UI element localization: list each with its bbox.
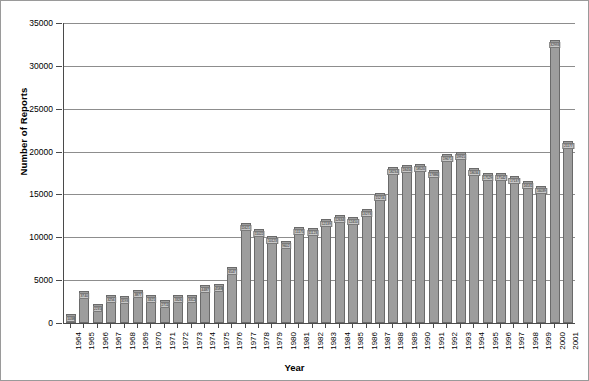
x-axis-tick-label: 1988: [396, 332, 405, 350]
x-axis-tick-label: 1964: [74, 332, 83, 350]
y-axis-tick: [56, 237, 62, 238]
bar: 11123: [308, 228, 318, 323]
bar-slot: 2711: [160, 23, 170, 323]
x-axis-tick: [352, 324, 353, 328]
bar-value-label: 3312: [187, 297, 197, 303]
x-axis-tick-label: 1990: [423, 332, 432, 350]
bar-slot: 1038: [66, 23, 76, 323]
bar-value-label: 18434: [401, 167, 413, 173]
x-axis-tick-label: 1977: [249, 332, 258, 350]
x-axis-tick-label: 1998: [531, 332, 540, 350]
x-axis-tick-label: 1981: [302, 332, 311, 350]
x-axis-tick: [97, 324, 98, 328]
bar-slot: 18520: [415, 23, 425, 323]
x-axis-tick-label: 1989: [410, 332, 419, 350]
x-axis-tick-label: 1985: [356, 332, 365, 350]
bar: 13273: [362, 209, 372, 323]
y-axis-tick-label: 0: [48, 318, 53, 328]
bar: 17529: [483, 173, 493, 323]
y-axis-tick: [56, 323, 62, 324]
bar-value-label: 2235: [93, 306, 103, 312]
bar-value-label: 3326: [173, 297, 183, 303]
bar-value-label: 11175: [294, 229, 305, 235]
bar-value-label: 13273: [361, 211, 373, 217]
bar-slot: 3256: [106, 23, 116, 323]
bar-slot: 19915: [456, 23, 466, 323]
x-axis-tick: [164, 324, 165, 328]
bar: 3312: [187, 295, 197, 323]
bar-slot: 11621: [241, 23, 251, 323]
bar: 11175: [294, 227, 304, 323]
bar-slot: 2235: [93, 23, 103, 323]
x-axis-tick-label: 1973: [195, 332, 204, 350]
x-axis-tick-label: 1996: [504, 332, 513, 350]
bar-value-label: 4487: [200, 287, 210, 293]
x-axis-tick: [392, 324, 393, 328]
x-axis-tick: [191, 324, 192, 328]
x-axis-tick: [285, 324, 286, 328]
bar-value-label: 16531: [522, 183, 534, 189]
x-axis-tick-label: 1980: [289, 332, 298, 350]
bar: 12410: [348, 217, 358, 323]
bar: 2235: [93, 304, 103, 323]
x-axis-tick: [339, 324, 340, 328]
x-axis-tick-label: 1991: [437, 332, 446, 350]
x-axis-tick: [137, 324, 138, 328]
x-axis-tick: [513, 324, 514, 328]
bar-slot: 21177: [563, 23, 573, 323]
x-axis-tick-label: 1971: [168, 332, 177, 350]
x-axis-tick: [500, 324, 501, 328]
bar-slot: 17137: [510, 23, 520, 323]
bar: 2711: [160, 300, 170, 323]
y-axis-tick-label: 25000: [29, 104, 53, 114]
bar: 1038: [66, 314, 76, 323]
bar-value-label: 9602: [281, 243, 291, 249]
x-axis-tick-label: 1966: [101, 332, 110, 350]
bar-value-label: 17137: [509, 178, 521, 184]
x-axis-tick: [567, 324, 568, 328]
bar: 11621: [241, 223, 251, 323]
bar-slot: 18434: [402, 23, 412, 323]
x-axis-tick-label: 1969: [141, 332, 150, 350]
bar: 19915: [456, 152, 466, 323]
x-axis-tick: [554, 324, 555, 328]
bar-value-label: 11022: [253, 231, 264, 237]
x-axis-tick: [204, 324, 205, 328]
y-axis-tick: [56, 66, 62, 67]
bar-slot: 3877: [133, 23, 143, 323]
bar: 17886: [429, 170, 439, 323]
x-axis-tick: [419, 324, 420, 328]
bar: 3321: [146, 295, 156, 323]
x-axis-tick-label: 1965: [87, 332, 96, 350]
x-axis-tick: [258, 324, 259, 328]
bar: 17137: [510, 176, 520, 323]
bar: 16531: [523, 181, 533, 323]
x-axis-tick: [70, 324, 71, 328]
x-axis-tick: [379, 324, 380, 328]
x-axis-tick-label: 1976: [235, 332, 244, 350]
bar: 32993: [550, 40, 560, 323]
y-axis-tick: [56, 194, 62, 195]
x-axis-tick: [218, 324, 219, 328]
y-axis-title: Number of Reports: [18, 62, 29, 202]
x-axis-tick: [150, 324, 151, 328]
x-axis-tick-label: 1975: [222, 332, 231, 350]
x-axis-tick: [460, 324, 461, 328]
x-axis-tick-label: 1972: [181, 332, 190, 350]
x-axis-tick: [487, 324, 488, 328]
x-axis-tick: [298, 324, 299, 328]
x-axis-tick-label: 1978: [262, 332, 271, 350]
x-axis-tick-label: 1995: [491, 332, 500, 350]
bar: 4487: [200, 285, 210, 323]
x-axis-tick: [527, 324, 528, 328]
bar: 12634: [335, 215, 345, 323]
bar-slot: 16531: [523, 23, 533, 323]
bar: 6547: [227, 267, 237, 323]
x-axis-tick: [271, 324, 272, 328]
bar-value-label: 12139: [320, 221, 332, 227]
x-axis-tick: [177, 324, 178, 328]
x-axis-tick-label: 1983: [329, 332, 338, 350]
x-axis-tick-label: 1979: [275, 332, 284, 350]
bar: 3877: [133, 290, 143, 323]
x-axis-tick: [325, 324, 326, 328]
